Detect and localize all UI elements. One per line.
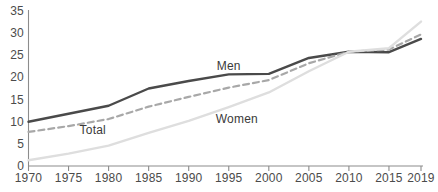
x-axis-tick-label: 2019 [404,172,438,184]
x-axis-tick-label: 2000 [252,172,286,184]
series-annotation-total: Total [80,124,106,136]
y-axis-tick-label: 30 [0,27,24,39]
y-axis-tick-label: 15 [0,94,24,106]
y-axis-tick-label: 20 [0,71,24,83]
series-annotation-women: Women [216,113,258,125]
series-line-women [29,22,422,161]
x-axis-tick-label: 1985 [132,172,166,184]
series-annotation-men: Men [217,60,241,72]
y-axis-tick-label: 25 [0,49,24,61]
x-axis-tick-label: 1990 [172,172,206,184]
x-axis-tick-label: 1980 [92,172,126,184]
y-axis-tick-label: 35 [0,5,24,17]
x-axis-tick-label: 1970 [12,172,46,184]
y-axis-tick-label: 10 [0,116,24,128]
x-axis-tick-label: 1995 [212,172,246,184]
x-axis-tick-label: 2005 [292,172,326,184]
y-axis-tick-label: 5 [0,138,24,150]
x-axis-tick-label: 2015 [372,172,406,184]
x-axis-tick-label: 1975 [52,172,86,184]
x-axis-tick-label: 2010 [332,172,366,184]
